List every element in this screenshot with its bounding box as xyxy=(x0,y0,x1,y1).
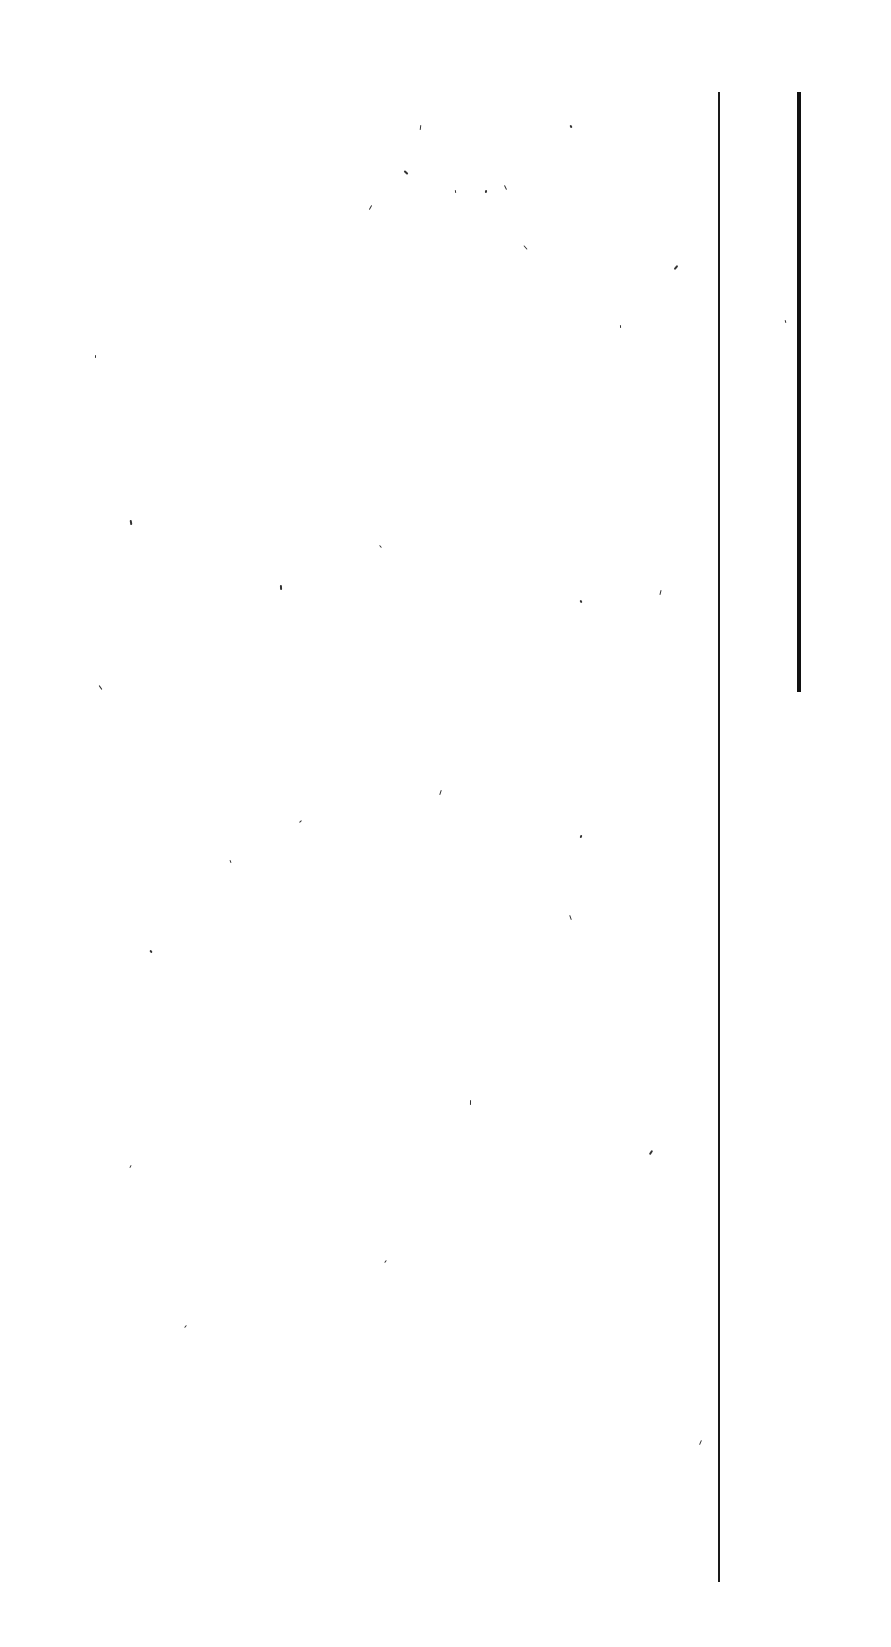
speck xyxy=(384,1260,387,1263)
speck xyxy=(230,860,232,863)
speck xyxy=(523,245,527,249)
speck xyxy=(99,685,103,690)
speck xyxy=(674,265,679,270)
speck xyxy=(569,125,572,129)
scanned-page xyxy=(0,0,891,1647)
margin-rule-left xyxy=(718,92,720,1582)
speck xyxy=(420,125,422,130)
speck xyxy=(569,915,572,920)
speck xyxy=(404,170,409,175)
speck xyxy=(129,1165,131,1168)
speck xyxy=(504,185,507,190)
speck xyxy=(184,1325,187,1328)
speck xyxy=(369,205,372,210)
speck xyxy=(455,190,456,193)
speck xyxy=(299,820,302,823)
speck xyxy=(485,190,488,193)
speck xyxy=(785,320,787,323)
speck xyxy=(649,1150,653,1155)
speck xyxy=(280,585,282,590)
speck xyxy=(149,950,152,954)
speck xyxy=(580,835,583,838)
speck xyxy=(439,790,441,795)
speck xyxy=(470,1100,471,1105)
speck xyxy=(579,600,582,604)
speck xyxy=(620,325,621,328)
speck xyxy=(659,590,661,595)
speck xyxy=(379,545,382,548)
speck xyxy=(699,1440,702,1445)
speck xyxy=(95,355,96,358)
speck xyxy=(130,520,133,525)
margin-rule-right xyxy=(797,92,801,692)
